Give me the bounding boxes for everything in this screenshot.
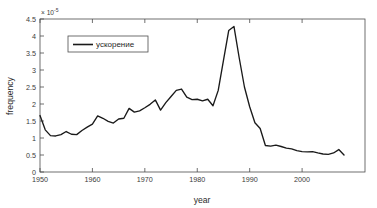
y-tick-label: 4.5: [26, 15, 36, 24]
y-tick-label: 4: [32, 32, 36, 41]
figure-container: 00.511.522.533.544.5 1950196019701980199…: [0, 0, 377, 208]
x-tick-label: 1970: [137, 175, 153, 184]
y-axis-title: frequency: [5, 76, 15, 114]
x-tick-label: 1980: [189, 175, 205, 184]
y-tick-label: 2: [32, 100, 36, 109]
y-axis-exponent-power: -5: [54, 7, 59, 13]
y-tick-label: 0.5: [26, 151, 36, 160]
x-tick-label: 1950: [32, 175, 48, 184]
x-tick-label: 1990: [242, 175, 258, 184]
y-tick-label: 1: [32, 134, 36, 143]
y-axis-exponent-base: × 10: [41, 9, 54, 16]
y-tick-label: 3.5: [26, 49, 36, 58]
x-tick-label: 2000: [294, 175, 310, 184]
legend: ускорение: [68, 36, 148, 52]
legend-label: ускорение: [96, 40, 135, 49]
y-tick-label: 3: [32, 66, 36, 75]
y-axis-exponent: × 10-5: [41, 7, 59, 16]
y-tick-label: 1.5: [26, 117, 36, 126]
line-chart: 00.511.522.533.544.5 1950196019701980199…: [0, 0, 377, 208]
x-tick-label: 1960: [84, 175, 100, 184]
x-axis-title: year: [194, 195, 211, 205]
y-tick-label: 2.5: [26, 83, 36, 92]
